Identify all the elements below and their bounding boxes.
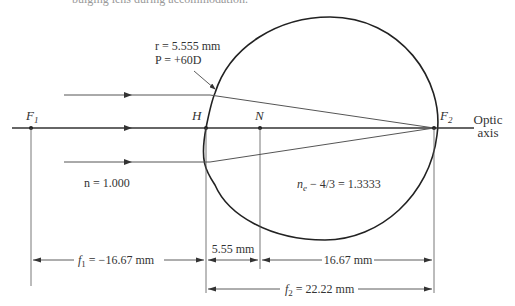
cornea-radius: r = 5.555 mm	[155, 39, 221, 53]
ray-arrow-lower-icon	[124, 159, 132, 165]
n-outside: n = 1.000	[84, 176, 130, 190]
ray-lower-refracted	[210, 128, 434, 162]
dim-f1-label: f1 = −16.67 mm	[78, 253, 155, 269]
label-N: N	[254, 108, 265, 123]
dim-f2-label: f2 = 22.22 mm	[285, 282, 355, 298]
ray-upper-refracted	[210, 95, 434, 128]
dim-h-n-label: 5.55 mm	[212, 242, 255, 256]
dim-n-f2-label: 16.67 mm	[324, 253, 373, 267]
label-H: H	[191, 108, 202, 123]
cornea-power: P = +60D	[155, 53, 202, 67]
dim-arrow-icon	[208, 287, 216, 292]
dim-arrow-icon	[208, 258, 216, 263]
dim-arrow-icon	[424, 287, 432, 292]
reduced-eye-diagram: F1 H N F2 Optic axis r = 5.555 mm P = +6…	[0, 0, 515, 306]
ray-arrow-upper-icon	[124, 92, 132, 98]
label-F2: F2	[439, 108, 453, 125]
n-eye: ne − 4/3 = 1.3333	[297, 177, 381, 193]
dim-arrow-icon	[424, 258, 432, 263]
dim-arrow-icon	[250, 258, 258, 263]
dim-arrow-icon	[196, 258, 204, 263]
cornea-leader	[194, 71, 215, 89]
dim-arrow-icon	[33, 258, 41, 263]
label-F1: F1	[25, 108, 38, 125]
dim-arrow-icon	[262, 258, 270, 263]
ray-arrow-axis-icon	[124, 125, 132, 131]
label-optic-axis-2: axis	[478, 125, 499, 140]
